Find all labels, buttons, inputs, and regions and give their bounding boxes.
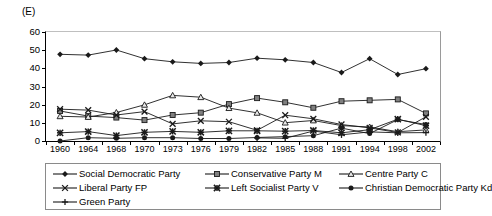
marker-diamond [339,70,345,76]
marker-square [142,118,147,123]
legend-label: Conservative Party M [230,168,322,180]
x-tick-mark [271,142,272,145]
legend-item-conservative-party-m[interactable]: Conservative Party M [204,167,322,181]
x-tick-label: 1991 [327,144,357,154]
marker-plus [254,135,260,141]
x-tick-mark [243,142,244,145]
x-tick-mark [74,142,75,145]
marker-square [283,100,288,105]
x-tick-mark [299,142,300,145]
y-tick-label: 0 [18,136,40,146]
marker-diamond [226,60,232,66]
marker-circle [395,117,400,122]
marker-square [198,110,203,115]
legend-marker-diamond-icon [52,168,78,180]
marker-diamond [310,60,316,66]
marker-star [198,129,204,135]
legend-item-centre-party-c[interactable]: Centre Party C [338,167,428,181]
x-tick-mark [159,142,160,145]
legend-marker-square-icon [204,168,230,180]
legend-item-green-party[interactable]: Green Party [52,195,130,209]
marker-circle [86,135,91,140]
legend-marker-cross-x-icon [52,182,78,194]
legend-item-christian-democratic-party-kd[interactable]: Christian Democratic Party Kd [338,181,492,195]
y-tick-label: 60 [18,27,40,37]
marker-square [215,172,220,177]
marker-star [282,128,288,134]
marker-circle [142,135,147,140]
x-tick-label: 2002 [411,144,441,154]
x-tick-mark [384,142,385,145]
marker-circle [198,136,203,141]
x-tick-label: 1994 [355,144,385,154]
x-tick-mark [46,142,47,145]
legend-item-liberal-party-fp[interactable]: Liberal Party FP [52,181,147,195]
y-tick-mark [42,87,46,88]
marker-square [170,113,175,118]
chart-legend: Social Democratic PartyConservative Part… [45,163,441,210]
legend-marker-triangle-icon [338,168,364,180]
marker-diamond [57,51,63,57]
x-tick-mark [327,142,328,145]
legend-label: Green Party [78,196,130,208]
x-tick-mark [440,142,441,145]
legend-marker-star-icon [204,182,230,194]
marker-star [226,128,232,134]
y-tick-mark [42,105,46,106]
x-tick-label: 1998 [383,144,413,154]
legend-row: Liberal Party FPLeft Socialist Party VCh… [46,181,440,195]
x-tick-mark [102,142,103,145]
marker-circle [226,136,231,141]
legend-row: Green Party [46,195,440,209]
marker-star [85,128,91,134]
x-tick-label: 1979 [214,144,244,154]
x-tick-label: 1985 [270,144,300,154]
marker-diamond [254,55,260,61]
legend-row: Social Democratic PartyConservative Part… [46,167,440,181]
marker-diamond [367,56,373,62]
marker-circle [349,186,354,191]
x-tick-mark [215,142,216,145]
marker-square [395,97,400,102]
y-tick-mark [42,123,46,124]
marker-circle [339,126,344,131]
x-tick-label: 1970 [130,144,160,154]
x-tick-label: 1968 [101,144,131,154]
legend-marker-circle-icon [338,182,364,194]
y-tick-mark [42,68,46,69]
series-layer [57,47,429,143]
y-tick-label: 20 [18,100,40,110]
marker-square [311,105,316,110]
marker-diamond [282,57,288,63]
legend-label: Left Socialist Party V [230,182,319,194]
marker-diamond [85,52,91,58]
x-tick-label: 1982 [242,144,272,154]
marker-diamond [142,56,148,62]
legend-marker-plus-icon [52,196,78,208]
marker-star [170,128,176,134]
marker-square [339,99,344,104]
marker-circle [114,136,119,141]
marker-square [255,96,260,101]
x-tick-label: 1988 [298,144,328,154]
series-line [60,50,426,75]
marker-diamond [113,47,119,53]
x-tick-mark [356,142,357,145]
x-tick-mark [187,142,188,145]
marker-circle [170,135,175,140]
marker-circle [423,122,428,127]
legend-label: Christian Democratic Party Kd [364,182,492,194]
legend-item-social-democratic-party[interactable]: Social Democratic Party [52,167,180,181]
marker-square [367,98,372,103]
legend-label: Social Democratic Party [78,168,180,180]
y-tick-mark [42,32,46,33]
y-tick-label: 10 [18,118,40,128]
legend-item-left-socialist-party-v[interactable]: Left Socialist Party V [204,181,319,195]
series-centre-party-c [57,92,429,134]
marker-diamond [423,66,429,72]
marker-star [141,129,147,135]
marker-diamond [198,61,204,67]
x-tick-mark [130,142,131,145]
marker-diamond [395,72,401,78]
